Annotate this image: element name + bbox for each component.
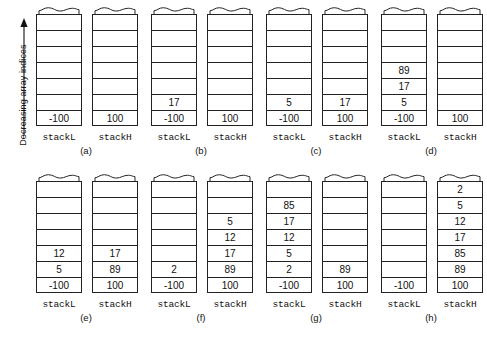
stack-name-label: stackH bbox=[431, 132, 487, 143]
stack-name-label: stackL bbox=[375, 299, 433, 310]
torn-edge-icon bbox=[151, 7, 197, 15]
stack-cell-empty bbox=[37, 46, 81, 62]
panel-caption: (e) bbox=[36, 312, 136, 323]
stack-cell-value: 100 bbox=[208, 277, 252, 293]
stack-column: 17100 bbox=[322, 14, 368, 126]
panel-g: 85171252-100stackL89100stackH(g) bbox=[266, 181, 366, 311]
stack-cell-empty bbox=[37, 213, 81, 229]
stack-cell-value: 17 bbox=[93, 245, 137, 261]
stack-column: 5121789100 bbox=[207, 181, 253, 293]
stack-cell-value: 5 bbox=[382, 94, 426, 110]
stack-column: 89100 bbox=[322, 181, 368, 293]
stack-cell-empty bbox=[152, 30, 196, 46]
stack-cell-empty bbox=[152, 14, 196, 30]
stack-column: 2-100 bbox=[151, 181, 197, 293]
stack-cell-value: 12 bbox=[438, 213, 482, 229]
stack-cell-empty bbox=[152, 62, 196, 78]
stack-name-label: stackH bbox=[86, 299, 144, 310]
stack-cell-empty bbox=[208, 78, 252, 94]
stack-cell-value: 2 bbox=[267, 261, 311, 277]
panel-c: 5-100stackL17100stackH(c) bbox=[266, 14, 366, 144]
stack-cell-value: 12 bbox=[208, 229, 252, 245]
stack-cell-empty bbox=[323, 213, 367, 229]
stack-cell-empty bbox=[323, 245, 367, 261]
stack-cell-value: 85 bbox=[438, 245, 482, 261]
stack-column: -100 bbox=[36, 14, 82, 126]
stack-cell-empty bbox=[208, 62, 252, 78]
stack-cell-value: 17 bbox=[382, 78, 426, 94]
stack-cell-empty bbox=[93, 213, 137, 229]
torn-edge-icon bbox=[151, 174, 197, 182]
stack-cell-value: 89 bbox=[438, 261, 482, 277]
stack-cell-empty bbox=[152, 78, 196, 94]
stack-cell-value: 100 bbox=[93, 277, 137, 293]
stack-cell-value: 100 bbox=[323, 277, 367, 293]
stack-name-label: stackH bbox=[201, 132, 259, 143]
panel-caption: (d) bbox=[381, 145, 481, 156]
stack-cell-value: -100 bbox=[152, 277, 196, 293]
stack-cell-empty bbox=[93, 78, 137, 94]
stack-cell-empty bbox=[438, 14, 482, 30]
stack-column: -100 bbox=[381, 181, 427, 293]
stack-cell-empty bbox=[93, 46, 137, 62]
stack-cell-value: 12 bbox=[267, 229, 311, 245]
stack-cell-empty bbox=[382, 197, 426, 213]
stack-cell-empty bbox=[37, 94, 81, 110]
stack-cell-value: 100 bbox=[438, 110, 482, 126]
stack-cell-empty bbox=[208, 197, 252, 213]
stack-cell-empty bbox=[152, 197, 196, 213]
panel-f: 2-100stackL5121789100stackH(f) bbox=[151, 181, 251, 311]
torn-edge-icon bbox=[322, 7, 368, 15]
torn-edge-icon bbox=[322, 174, 368, 182]
torn-edge-icon bbox=[207, 174, 253, 182]
stack-name-label: stackL bbox=[30, 299, 88, 310]
stack-cell-value: 100 bbox=[323, 110, 367, 126]
stack-cell-value: -100 bbox=[382, 110, 426, 126]
panel-caption: (a) bbox=[36, 145, 136, 156]
stack-column: 100 bbox=[437, 14, 483, 126]
stack-cell-empty bbox=[438, 62, 482, 78]
panel-caption: (f) bbox=[151, 312, 251, 323]
stack-column: 2512178589100 bbox=[437, 181, 483, 293]
stack-cell-empty bbox=[382, 229, 426, 245]
stack-cell-empty bbox=[323, 46, 367, 62]
stack-cell-empty bbox=[382, 30, 426, 46]
stack-cell-empty bbox=[37, 181, 81, 197]
stack-name-label: stackH bbox=[316, 132, 374, 143]
stack-column: 100 bbox=[207, 14, 253, 126]
panel-d: 89175-100stackL100stackH(d) bbox=[381, 14, 481, 144]
stack-cell-empty bbox=[382, 46, 426, 62]
stack-cell-value: 89 bbox=[208, 261, 252, 277]
panel-caption: (g) bbox=[266, 312, 366, 323]
torn-edge-icon bbox=[207, 7, 253, 15]
panel-caption: (c) bbox=[266, 145, 366, 156]
stack-name-label: stackH bbox=[431, 299, 487, 310]
stack-cell-empty bbox=[323, 78, 367, 94]
stack-cell-value: -100 bbox=[267, 277, 311, 293]
stack-cell-empty bbox=[382, 181, 426, 197]
stack-cell-value: 89 bbox=[93, 261, 137, 277]
stack-cell-empty bbox=[152, 46, 196, 62]
stack-column: 5-100 bbox=[266, 14, 312, 126]
stack-cell-value: 2 bbox=[438, 181, 482, 197]
panel-b: 17-100stackL100stackH(b) bbox=[151, 14, 251, 144]
stack-cell-empty bbox=[152, 213, 196, 229]
stack-cell-value: 100 bbox=[438, 277, 482, 293]
stack-cell-value: 100 bbox=[208, 110, 252, 126]
stack-cell-empty bbox=[267, 62, 311, 78]
panel-h: -100stackL2512178589100stackH(h) bbox=[381, 181, 481, 311]
stack-cell-value: -100 bbox=[382, 277, 426, 293]
axis-label: Decreasing array indices bbox=[18, 0, 28, 190]
stack-cell-empty bbox=[208, 181, 252, 197]
stack-cell-empty bbox=[37, 197, 81, 213]
stack-cell-empty bbox=[267, 181, 311, 197]
torn-edge-icon bbox=[36, 7, 82, 15]
stack-cell-empty bbox=[37, 30, 81, 46]
stack-column: 125-100 bbox=[36, 181, 82, 293]
stack-cell-value: 12 bbox=[37, 245, 81, 261]
stack-name-label: stackH bbox=[316, 299, 374, 310]
stack-name-label: stackL bbox=[375, 132, 433, 143]
torn-edge-icon bbox=[36, 174, 82, 182]
stack-cell-value: 17 bbox=[267, 213, 311, 229]
stack-cell-value: 17 bbox=[152, 94, 196, 110]
